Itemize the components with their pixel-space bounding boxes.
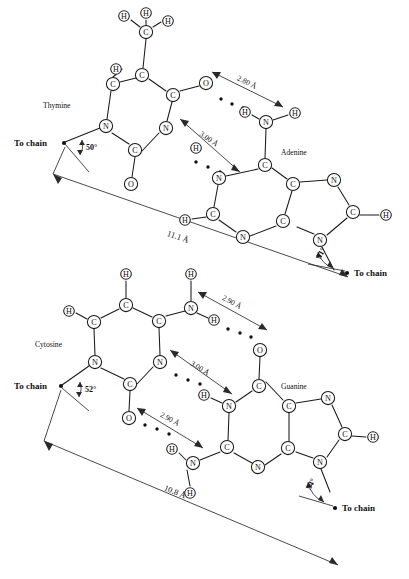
atom-label-h: H	[187, 489, 193, 498]
right-chain-marker-bottom: To chain 54°	[299, 477, 375, 513]
atom-label-n: N	[317, 458, 323, 467]
atom-label-h: H	[188, 270, 194, 279]
span-label-10-8: 10.8 Å	[163, 484, 188, 501]
atom-label-c: C	[285, 444, 291, 453]
atom-label-h: H	[201, 391, 207, 400]
adenine-label: Adenine	[281, 148, 307, 157]
atom-label-n: N	[157, 358, 163, 367]
atom-label-n: N	[240, 233, 246, 242]
atom-label-n: N	[226, 402, 232, 411]
atom-label-c: C	[143, 28, 149, 37]
atom-label-h: H	[292, 109, 298, 118]
atom-label-c: C	[156, 317, 162, 326]
atom-label-o: O	[257, 346, 263, 355]
atom-label-h: H	[193, 144, 199, 153]
atom-label-n: N	[216, 174, 222, 183]
angle-label-50: 50°	[86, 143, 97, 152]
atom-label-c: C	[123, 301, 129, 310]
atom-label-h: H	[182, 216, 188, 225]
atom-label-h: H	[143, 9, 149, 18]
atom-label-h: H	[165, 17, 171, 26]
atom-label-c: C	[290, 180, 296, 189]
atom-label-h: H	[242, 108, 248, 117]
distance-dimension-2-80: 2.80 Å	[212, 72, 283, 107]
distance-label-2-80: 2.80 Å	[236, 73, 259, 90]
atom-label-h: H	[211, 316, 217, 325]
atoms-layer: HHHCCHCNCONCOHNHCNHCHNCCNCHNHHCHCNCONCNH…	[64, 8, 392, 499]
atom-label-c: C	[286, 402, 292, 411]
guanine-bonds	[179, 357, 366, 492]
base-pair-figure: 2.80 Å 3.00 Å Thymine Adenine To chain	[0, 0, 409, 579]
right-chain-marker-top: To chain 51°	[308, 246, 387, 278]
angle-label-52: 52°	[85, 385, 96, 394]
atom-label-h: H	[121, 12, 127, 21]
to-chain-label-left-top: To chain	[14, 138, 47, 148]
distance-label-3-00-bottom: 3.00 Å	[189, 359, 212, 378]
atom-label-c: C	[91, 318, 97, 327]
base-pair-svg: 2.80 Å 3.00 Å Thymine Adenine To chain	[0, 0, 409, 579]
atom-label-c: C	[350, 208, 356, 217]
atom-label-c: C	[256, 382, 262, 391]
distance-label-2-90-lower: 2.90 Å	[159, 410, 182, 428]
atom-label-h: H	[383, 211, 389, 220]
angle-label-54: 54°	[304, 477, 317, 491]
atom-label-h: H	[370, 433, 376, 442]
atom-label-c: C	[127, 380, 133, 389]
atom-label-h: H	[66, 307, 72, 316]
atom-label-o: O	[128, 180, 134, 189]
span-dimension-10-8: 10.8 Å	[44, 390, 338, 565]
atom-label-c: C	[210, 210, 216, 219]
atom-label-c: C	[132, 146, 138, 155]
to-chain-label-right-top: To chain	[354, 268, 387, 278]
atom-label-c: C	[262, 161, 268, 170]
thymine-bonds	[107, 20, 199, 177]
atom-label-n: N	[325, 394, 331, 403]
atom-label-c: C	[224, 443, 230, 452]
atom-label-n: N	[263, 118, 269, 127]
thymine-adenine-atoms: HHHCCHCNCONCOHNHCNHCHNCCNCHN	[99, 8, 391, 247]
atom-label-n: N	[317, 236, 323, 245]
hbond-dots-to-oxygen	[219, 97, 244, 109]
atom-label-o: O	[126, 414, 132, 423]
atom-label-n: N	[92, 358, 98, 367]
thymine-label: Thymine	[43, 101, 71, 110]
atom-label-n: N	[103, 122, 109, 131]
atom-label-c: C	[342, 430, 348, 439]
span-dimension-11-1: 11.1 Å	[53, 147, 348, 277]
distance-label-2-90-upper: 2.90 Å	[221, 293, 244, 311]
left-chain-marker-bottom: To chain 52°	[14, 366, 96, 411]
angle-label-51: 51°	[314, 246, 327, 260]
atom-label-c: C	[170, 91, 176, 100]
hbond-dots-upper	[226, 327, 252, 338]
hbond-dots-middle	[174, 373, 201, 385]
atom-label-n: N	[163, 124, 169, 133]
adenine-bonds	[192, 115, 379, 270]
to-chain-label-right-bottom: To chain	[342, 503, 375, 513]
atom-label-h: H	[169, 445, 175, 454]
distance-dimension-3-00-bottom: 3.00 Å	[170, 350, 232, 394]
cytosine-label: Cytosine	[35, 340, 63, 349]
hbond-dots-lower	[143, 423, 170, 435]
atom-label-c: C	[139, 71, 145, 80]
atom-label-h: H	[123, 270, 129, 279]
cytosine-guanine-atoms: HHCHCNCONCNHOHNCCNHHNCCNCHN	[64, 269, 379, 499]
atom-label-c: C	[280, 217, 286, 226]
guanine-label: Guanine	[281, 382, 307, 391]
span-label-11-1: 11.1 Å	[166, 229, 190, 245]
atom-label-n: N	[331, 176, 337, 185]
cytosine-guanine-pair: 2.90 Å 3.00 Å 2.90 Å Cytosine Guanine	[14, 281, 375, 565]
distance-dimension-3-00: 3.00 Å	[180, 119, 240, 172]
atom-label-c: C	[110, 80, 116, 89]
to-chain-label-left-bottom: To chain	[14, 381, 47, 391]
atom-label-n: N	[190, 459, 196, 468]
atom-label-h: H	[113, 65, 119, 74]
distance-dimension-2-90-upper: 2.90 Å	[198, 292, 267, 330]
distance-dimension-2-90-lower: 2.90 Å	[137, 408, 203, 448]
atom-label-n: N	[188, 304, 194, 313]
atom-label-o: O	[203, 79, 209, 88]
atom-label-n: N	[255, 463, 261, 472]
